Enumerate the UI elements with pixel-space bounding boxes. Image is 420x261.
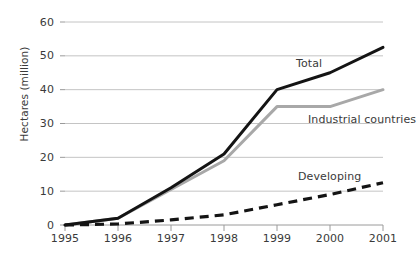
series-lines <box>65 47 383 225</box>
line-chart: Hectares (million) 60 50 40 30 20 10 0 1… <box>0 0 420 261</box>
x-axis-ticks <box>65 225 383 231</box>
series-line-total <box>65 47 383 225</box>
plot-area <box>0 0 420 261</box>
